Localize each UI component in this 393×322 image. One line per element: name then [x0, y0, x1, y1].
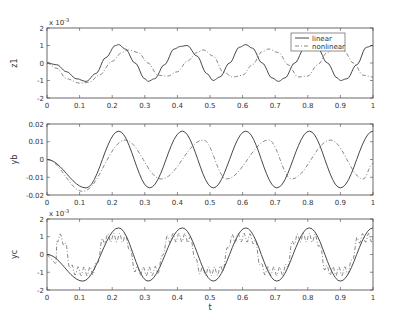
x-tick-label: 0.9 [335, 102, 346, 110]
y-axis-label: yb [10, 155, 19, 165]
y-axis-label: yc [10, 250, 19, 259]
x-tick-label: 0.3 [139, 102, 150, 110]
x-tick-label: 0.4 [172, 199, 184, 207]
series-nonlinear [47, 140, 373, 191]
x-tick-label: 0.7 [270, 294, 281, 302]
x-tick-label: 0.1 [74, 199, 85, 207]
y-tick-label: -0.02 [26, 192, 44, 200]
legend-linear: linear [312, 35, 332, 43]
y-tick-label: 0 [40, 251, 44, 259]
y-tick-label: 0.02 [28, 121, 44, 129]
x-tick-label: 0.8 [302, 102, 313, 110]
y-tick-label: 0 [40, 60, 44, 68]
y-tick-label: 0.01 [28, 138, 44, 146]
series-linear [47, 228, 373, 281]
y-tick-label: -2 [37, 287, 44, 295]
y-multiplier: x 10-3 [49, 208, 69, 218]
x-tick-label: 0.5 [204, 102, 215, 110]
x-tick-label: 0.8 [302, 199, 313, 207]
x-tick-label: 0.4 [172, 102, 184, 110]
subplot-yc: 00.10.20.30.40.50.60.70.80.91210-1-2x 10… [10, 208, 375, 312]
x-tick-label: 0.9 [335, 199, 346, 207]
x-tick-label: 0.6 [237, 199, 249, 207]
x-tick-label: 0.9 [335, 294, 346, 302]
x-tick-label: 0.3 [139, 199, 150, 207]
y-tick-label: -1 [37, 77, 44, 85]
x-axis-label: t [208, 303, 211, 312]
x-tick-label: 0.7 [270, 102, 281, 110]
x-tick-label: 1 [371, 102, 375, 110]
series-nonlinear [47, 233, 373, 275]
x-tick-label: 0.5 [204, 294, 215, 302]
x-tick-label: 0.1 [74, 102, 85, 110]
x-tick-label: 0.8 [302, 294, 313, 302]
x-tick-label: 0.6 [237, 294, 249, 302]
y-tick-label: 1 [40, 233, 44, 241]
x-tick-label: 0.2 [107, 294, 118, 302]
y-tick-label: 2 [40, 216, 44, 224]
x-tick-label: 1 [371, 294, 375, 302]
x-tick-label: 0.2 [107, 199, 118, 207]
y-tick-label: -1 [37, 269, 44, 277]
x-tick-label: 0.3 [139, 294, 150, 302]
x-tick-label: 1 [371, 199, 375, 207]
legend-nonlinear: nonlinear [312, 43, 345, 51]
x-tick-label: 0 [45, 199, 49, 207]
x-tick-label: 0.1 [74, 294, 85, 302]
x-tick-label: 0 [45, 102, 49, 110]
y-axis-label: z1 [10, 58, 19, 67]
subplot-yb: 00.10.20.30.40.50.60.70.80.910.020.010-0… [10, 121, 375, 208]
axes-frame [47, 124, 373, 195]
subplot-z1: 00.10.20.30.40.50.60.70.80.91210-1-2x 10… [10, 17, 375, 110]
x-tick-label: 0 [45, 294, 49, 302]
y-tick-label: 2 [40, 25, 44, 33]
series-nonlinear [47, 49, 373, 83]
figure: 00.10.20.30.40.50.60.70.80.91210-1-2x 10… [0, 0, 393, 322]
y-tick-label: 0 [40, 156, 44, 164]
legend: linearnonlinear [291, 33, 345, 51]
y-tick-label: 1 [40, 42, 44, 50]
x-tick-label: 0.2 [107, 102, 118, 110]
x-tick-label: 0.7 [270, 199, 281, 207]
y-tick-label: -2 [37, 95, 44, 103]
y-tick-label: -0.01 [26, 174, 44, 182]
x-tick-label: 0.6 [237, 102, 249, 110]
x-tick-label: 0.5 [204, 199, 215, 207]
y-multiplier: x 10-3 [49, 17, 69, 27]
series-linear [47, 131, 373, 188]
x-tick-label: 0.4 [172, 294, 184, 302]
